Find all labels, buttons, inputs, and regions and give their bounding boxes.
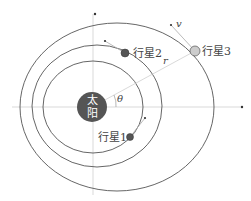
planet-3-velocity-arrow-icon [170, 24, 172, 26]
angle-label: θ [117, 93, 123, 104]
diagram-canvas: 太 阳 行星1 行星2 行星3 v r θ [0, 0, 251, 201]
radius-label: r [163, 55, 169, 66]
angle-arc [114, 95, 116, 107]
planet-2-velocity-arrow-icon [104, 40, 106, 42]
planet-3 [190, 46, 200, 56]
sun-label-bottom: 阳 [87, 107, 98, 120]
planet-2-label: 行星2 [133, 47, 162, 60]
planet-2 [121, 49, 129, 57]
planet-1-label: 行星1 [98, 131, 127, 144]
vertical-axis-arrow-icon [94, 13, 96, 15]
planet-3-label: 行星3 [202, 45, 231, 58]
orbital-diagram: 太 阳 行星1 行星2 行星3 v r θ [0, 0, 251, 201]
sun-label-top: 太 [87, 94, 98, 107]
planet-1 [127, 134, 134, 141]
velocity-label: v [176, 18, 182, 29]
planet-1-velocity-arrow-icon [144, 117, 146, 119]
horizontal-axis-arrow-icon [241, 106, 243, 108]
